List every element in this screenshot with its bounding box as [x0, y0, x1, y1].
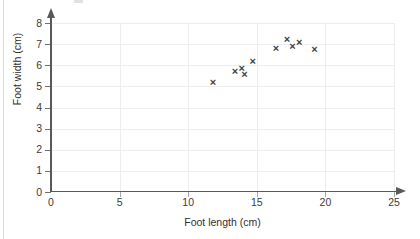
x-axis-tick-label: 5	[108, 197, 132, 208]
x-axis-arrow-icon	[396, 187, 406, 195]
gridline-horizontal	[51, 44, 394, 45]
y-axis-tick-label: 1	[26, 165, 42, 176]
gridline-vertical	[188, 23, 189, 192]
gridline-vertical	[394, 23, 395, 192]
x-axis-tick-label: 20	[313, 197, 337, 208]
y-axis-tick-label: 5	[26, 81, 42, 92]
data-point-marker	[208, 78, 217, 87]
x-axis-line	[50, 191, 398, 193]
y-axis-tick-label: 7	[26, 39, 42, 50]
y-axis-title: Foot width (cm)	[11, 4, 23, 134]
data-point-marker	[310, 45, 319, 54]
scatter-plot-figure: 012345678 0510152025 Foot length (cm) Fo…	[0, 0, 420, 239]
y-axis-tick-label: 8	[26, 18, 42, 29]
x-axis-title: Foot length (cm)	[51, 216, 394, 228]
y-axis-tick-label: 0	[26, 187, 42, 198]
x-axis-tick-label: 0	[39, 197, 63, 208]
data-point-marker	[272, 44, 281, 53]
y-axis-tick-label: 2	[26, 144, 42, 155]
gridline-horizontal	[51, 23, 394, 24]
gridline-horizontal	[51, 108, 394, 109]
gridline-horizontal	[51, 171, 394, 172]
gridline-horizontal	[51, 150, 394, 151]
gridline-horizontal	[51, 129, 394, 130]
y-axis-tick-label: 4	[26, 102, 42, 113]
y-axis-arrow-icon	[47, 8, 55, 18]
data-point-marker	[240, 70, 249, 79]
x-axis-tick-label: 10	[176, 197, 200, 208]
gridline-horizontal	[51, 65, 394, 66]
x-axis-tick-label: 25	[382, 197, 406, 208]
x-axis-tick-label: 15	[245, 197, 269, 208]
gridline-horizontal	[51, 86, 394, 87]
y-axis-tick-label: 6	[26, 60, 42, 71]
gridline-vertical	[325, 23, 326, 192]
data-point-marker	[248, 57, 257, 66]
plot-area: 012345678 0510152025 Foot length (cm) Fo…	[0, 0, 420, 239]
y-axis-tick-label: 3	[26, 123, 42, 134]
gridline-vertical	[120, 23, 121, 192]
y-axis-line	[50, 17, 52, 192]
gridline-vertical	[257, 23, 258, 192]
data-point-marker	[295, 38, 304, 47]
